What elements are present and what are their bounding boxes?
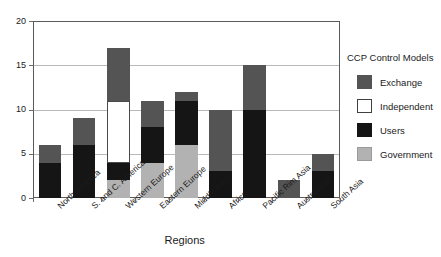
y-tick-label: 5 — [1, 149, 26, 158]
bar-segment[interactable] — [243, 110, 266, 199]
x-tick-label: Pacific Rim Asia — [261, 204, 267, 211]
bar-group[interactable] — [39, 21, 62, 198]
x-tick-label: Western Europe — [124, 204, 130, 211]
bar-segment[interactable] — [73, 118, 96, 145]
bar-segment[interactable] — [209, 110, 232, 172]
legend-entry[interactable]: Exchange — [347, 70, 441, 94]
legend-entry[interactable]: Users — [347, 118, 441, 142]
legend-swatch — [357, 123, 372, 137]
bar-segment[interactable] — [175, 92, 198, 101]
bar-segment[interactable] — [107, 48, 130, 101]
x-tick-label: S. and C. America — [90, 204, 96, 211]
bar-segment[interactable] — [141, 101, 164, 128]
x-tick-mark — [238, 198, 239, 202]
x-tick-mark — [272, 198, 273, 202]
legend-label: Independent — [380, 101, 433, 112]
x-tick-label: South Asia — [329, 204, 335, 211]
x-tick-mark — [169, 198, 170, 202]
legend-entry[interactable]: Government — [347, 142, 441, 166]
x-tick-label: North America — [56, 204, 62, 211]
x-tick-mark — [340, 198, 341, 202]
y-tick-label: 10 — [1, 105, 26, 114]
x-tick-label: Africa — [227, 204, 233, 211]
x-tick-mark — [101, 198, 102, 202]
x-tick-mark — [306, 198, 307, 202]
bar-segment[interactable] — [107, 101, 130, 163]
bar-group[interactable] — [209, 21, 232, 198]
stacked-bar-chart: 05101520 North AmericaS. and C. AmericaW… — [0, 0, 441, 257]
bar-segment[interactable] — [312, 154, 335, 172]
bar-segment[interactable] — [39, 145, 62, 163]
x-axis-title: Regions — [165, 234, 205, 246]
bar-segment[interactable] — [39, 163, 62, 198]
y-tick-label: 0 — [1, 194, 26, 203]
legend-swatch — [357, 75, 372, 89]
legend-swatch — [357, 99, 372, 113]
bar-segment[interactable] — [243, 65, 266, 109]
x-tick-mark — [67, 198, 68, 202]
bar-segment[interactable] — [141, 127, 164, 162]
legend-entry[interactable]: Independent — [347, 94, 441, 118]
y-tick-label: 15 — [1, 61, 26, 70]
legend-title: CCP Control Models — [347, 52, 441, 63]
x-tick-mark — [204, 198, 205, 202]
x-tick-label: Eastern Europe — [158, 204, 164, 211]
x-tick-mark — [135, 198, 136, 202]
bar-segment[interactable] — [175, 101, 198, 145]
bar-group[interactable] — [312, 21, 335, 198]
y-tick-label: 20 — [1, 17, 26, 26]
legend-label: Exchange — [380, 77, 422, 88]
x-tick-mark — [33, 198, 34, 202]
legend-label: Government — [380, 149, 432, 160]
legend-label: Users — [380, 125, 405, 136]
chart-legend: CCP Control Models ExchangeIndependentUs… — [347, 52, 441, 166]
bar-group[interactable] — [243, 21, 266, 198]
x-tick-label: Middle East — [193, 204, 199, 211]
legend-swatch — [357, 147, 372, 161]
legend-entries: ExchangeIndependentUsersGovernment — [347, 70, 441, 166]
x-tick-label: Australasia — [295, 204, 301, 211]
